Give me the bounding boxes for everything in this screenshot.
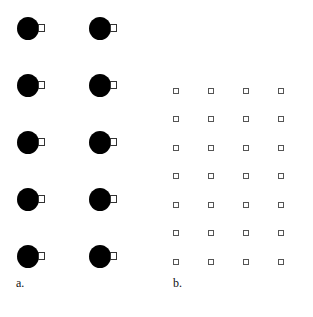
grid-square	[208, 259, 214, 265]
grid-square	[173, 145, 179, 151]
filled-circle	[17, 131, 39, 154]
filled-circle	[17, 245, 39, 268]
grid-square	[208, 202, 214, 208]
attached-square	[38, 195, 45, 203]
filled-circle	[89, 17, 111, 40]
grid-square	[208, 230, 214, 236]
grid-square	[173, 173, 179, 179]
filled-circle	[17, 188, 39, 211]
grid-square	[173, 116, 179, 122]
filled-circle	[89, 245, 111, 268]
grid-square	[278, 259, 284, 265]
attached-square	[38, 24, 45, 32]
grid-square	[278, 145, 284, 151]
grid-square	[278, 202, 284, 208]
grid-square	[243, 202, 249, 208]
filled-circle	[89, 74, 111, 97]
attached-square	[38, 252, 45, 260]
attached-square	[38, 138, 45, 146]
grid-square	[173, 202, 179, 208]
grid-square	[208, 116, 214, 122]
grid-square	[278, 230, 284, 236]
grid-square	[278, 173, 284, 179]
panel-a-label: a.	[16, 277, 24, 289]
attached-square	[110, 138, 117, 146]
attached-square	[110, 252, 117, 260]
grid-square	[173, 88, 179, 94]
filled-circle	[17, 17, 39, 40]
grid-square	[173, 230, 179, 236]
attached-square	[110, 81, 117, 89]
grid-square	[243, 145, 249, 151]
grid-square	[173, 259, 179, 265]
grid-square	[278, 116, 284, 122]
grid-square	[208, 88, 214, 94]
attached-square	[110, 195, 117, 203]
attached-square	[38, 81, 45, 89]
grid-square	[208, 173, 214, 179]
grid-square	[243, 88, 249, 94]
panel-b-label: b.	[173, 277, 182, 289]
filled-circle	[89, 131, 111, 154]
grid-square	[243, 230, 249, 236]
grid-square	[278, 88, 284, 94]
attached-square	[110, 24, 117, 32]
figure: a. b.	[0, 0, 313, 317]
filled-circle	[17, 74, 39, 97]
grid-square	[243, 173, 249, 179]
grid-square	[243, 259, 249, 265]
filled-circle	[89, 188, 111, 211]
grid-square	[243, 116, 249, 122]
grid-square	[208, 145, 214, 151]
